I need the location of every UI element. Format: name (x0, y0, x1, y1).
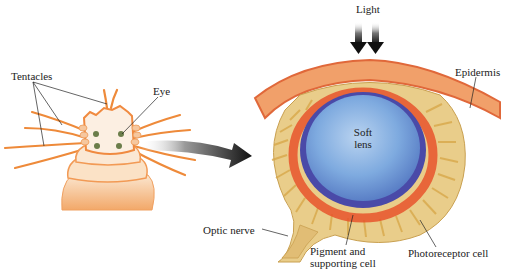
label-light: Light (356, 3, 380, 15)
magnify-arrow-icon (140, 141, 252, 168)
label-tentacles: Tentacles (11, 70, 52, 82)
label-optic-nerve: Optic nerve (203, 224, 255, 236)
label-soft-lens: Soft lens (350, 126, 376, 150)
diagram-canvas: Light Tentacles Eye Epidermis Soft lens … (0, 0, 507, 275)
label-pigment-line1: Pigment and (310, 245, 376, 257)
label-pigment-supporting-cell: Pigment and supporting cell (310, 245, 376, 269)
label-soft-lens-line1: Soft (350, 126, 376, 138)
light-arrows-icon (350, 22, 384, 54)
label-eye: Eye (153, 85, 170, 97)
label-pigment-line2: supporting cell (310, 257, 376, 269)
label-soft-lens-line2: lens (350, 138, 376, 150)
label-epidermis: Epidermis (455, 66, 500, 78)
label-photoreceptor-cell: Photoreceptor cell (408, 247, 488, 259)
eye-cross-section (255, 60, 500, 262)
